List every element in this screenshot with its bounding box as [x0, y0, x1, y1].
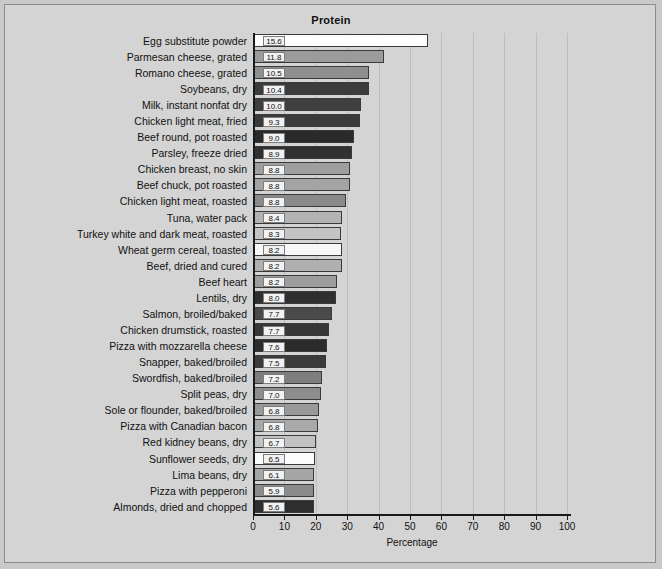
- bar-value-label: 8.2: [263, 261, 285, 271]
- bar: 8.9: [254, 146, 352, 159]
- bar: 8.2: [254, 243, 342, 256]
- bar: 10.5: [254, 66, 369, 79]
- bar-value-label: 8.3: [263, 229, 285, 239]
- bar-row: Soybeans, dry10.4: [253, 82, 571, 96]
- bar-value-label: 7.2: [263, 374, 285, 384]
- bar-row: Wheat germ cereal, toasted8.2: [253, 243, 571, 257]
- bar-row: Sunflower seeds, dry6.5: [253, 452, 571, 466]
- category-label: Sunflower seeds, dry: [149, 452, 247, 466]
- bar-value-label: 5.6: [263, 502, 285, 512]
- bar: 10.4: [254, 82, 369, 95]
- bar-row: Beef round, pot roasted9.0: [253, 130, 571, 144]
- bar-value-label: 6.8: [263, 406, 285, 416]
- bar-row: Beef chuck, pot roasted8.8: [253, 178, 571, 192]
- bar-row: Swordfish, baked/broiled7.2: [253, 371, 571, 385]
- bar: 8.3: [254, 227, 341, 240]
- bar-row: Pizza with mozzarella cheese7.6: [253, 339, 571, 353]
- x-tick: [379, 516, 380, 520]
- category-label: Split peas, dry: [180, 387, 247, 401]
- category-label: Turkey white and dark meat, roasted: [77, 227, 247, 241]
- bar: 7.2: [254, 371, 322, 384]
- x-tick: [441, 516, 442, 520]
- category-label: Almonds, dried and chopped: [113, 500, 247, 514]
- x-tick-label: 0: [238, 521, 268, 532]
- bar-value-label: 8.2: [263, 245, 285, 255]
- bar: 7.7: [254, 307, 332, 320]
- bar: 7.0: [254, 387, 321, 400]
- bar: 9.3: [254, 114, 360, 127]
- x-tick-label: 10: [269, 521, 299, 532]
- x-tick: [473, 516, 474, 520]
- bar-row: Parmesan cheese, grated11.8: [253, 50, 571, 64]
- bar-row: Sole or flounder, baked/broiled6.8: [253, 403, 571, 417]
- bar-value-label: 8.9: [263, 149, 285, 159]
- category-label: Chicken light meat, roasted: [120, 194, 247, 208]
- bar-row: Split peas, dry7.0: [253, 387, 571, 401]
- bar-row: Chicken drumstick, roasted7.7: [253, 323, 571, 337]
- bar: 8.8: [254, 162, 350, 175]
- category-label: Lima beans, dry: [172, 468, 247, 482]
- bar-row: Salmon, broiled/baked7.7: [253, 307, 571, 321]
- bar: 8.4: [254, 211, 342, 224]
- bar-value-label: 8.8: [263, 165, 285, 175]
- bar: 6.7: [254, 435, 316, 448]
- bar-row: Beef heart8.2: [253, 275, 571, 289]
- x-tick: [284, 516, 285, 520]
- bar: 6.8: [254, 403, 319, 416]
- bar: 7.5: [254, 355, 326, 368]
- category-label: Chicken drumstick, roasted: [120, 323, 247, 337]
- x-tick: [536, 516, 537, 520]
- category-label: Salmon, broiled/baked: [143, 307, 247, 321]
- bar-row: Egg substitute powder15.6: [253, 34, 571, 48]
- bar-value-label: 7.5: [263, 358, 285, 368]
- bar: 8.0: [254, 291, 336, 304]
- bar-value-label: 5.9: [263, 486, 285, 496]
- bar-row: Tuna, water pack8.4: [253, 211, 571, 225]
- bar: 6.5: [254, 452, 315, 465]
- category-label: Beef chuck, pot roasted: [137, 178, 247, 192]
- bar-row: Chicken breast, no skin8.8: [253, 162, 571, 176]
- x-tick: [253, 516, 254, 520]
- y-axis-line: [253, 33, 255, 515]
- category-label: Pizza with pepperoni: [150, 484, 247, 498]
- bar: 8.8: [254, 194, 346, 207]
- x-tick-label: 60: [426, 521, 456, 532]
- bar-row: Parsley, freeze dried8.9: [253, 146, 571, 160]
- x-axis-line: [253, 514, 571, 516]
- bar-row: Milk, instant nonfat dry10.0: [253, 98, 571, 112]
- x-tick-label: 20: [301, 521, 331, 532]
- bar-value-label: 7.0: [263, 390, 285, 400]
- bar-value-label: 10.4: [263, 85, 285, 95]
- bar-value-label: 9.0: [263, 133, 285, 143]
- x-tick-label: 40: [364, 521, 394, 532]
- category-label: Chicken light meat, fried: [134, 114, 247, 128]
- x-tick: [347, 516, 348, 520]
- bar-value-label: 7.6: [263, 342, 285, 352]
- category-label: Beef heart: [199, 275, 247, 289]
- x-tick-label: 90: [521, 521, 551, 532]
- bar-value-label: 10.5: [263, 68, 285, 78]
- category-label: Parsley, freeze dried: [151, 146, 247, 160]
- bar-value-label: 7.7: [263, 326, 285, 336]
- bar-value-label: 8.4: [263, 213, 285, 223]
- category-label: Parmesan cheese, grated: [127, 50, 247, 64]
- x-tick-label: 50: [395, 521, 425, 532]
- x-tick: [316, 516, 317, 520]
- category-label: Beef round, pot roasted: [137, 130, 247, 144]
- chart-title: Protein: [5, 14, 657, 26]
- category-label: Pizza with Canadian bacon: [120, 419, 247, 433]
- x-tick-label: 70: [458, 521, 488, 532]
- bar-row: Lentils, dry8.0: [253, 291, 571, 305]
- category-label: Romano cheese, grated: [135, 66, 247, 80]
- bar: 5.9: [254, 484, 314, 497]
- bar-row: Pizza with Canadian bacon6.8: [253, 419, 571, 433]
- category-label: Milk, instant nonfat dry: [142, 98, 247, 112]
- bar-row: Pizza with pepperoni5.9: [253, 484, 571, 498]
- x-tick: [504, 516, 505, 520]
- bar-row: Almonds, dried and chopped5.6: [253, 500, 571, 514]
- bar: 7.7: [254, 323, 329, 336]
- x-tick-label: 30: [332, 521, 362, 532]
- chart-frame: Protein Egg substitute powder15.6Parmesa…: [4, 4, 656, 563]
- bar-value-label: 15.6: [263, 36, 285, 46]
- category-label: Egg substitute powder: [143, 34, 247, 48]
